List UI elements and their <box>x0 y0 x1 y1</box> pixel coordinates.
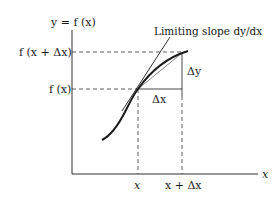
function-curve <box>102 51 188 140</box>
tangent-annotation: Limiting slope dy/dx <box>154 25 262 37</box>
secant-line <box>138 53 182 89</box>
delta-x-label: Δx <box>152 93 167 106</box>
y-axis-label: y = f (x) <box>50 16 96 29</box>
delta-y-label: Δy <box>187 65 202 78</box>
y-tick-upper: f (x + Δx) <box>19 46 72 59</box>
x-axis-label: x <box>262 168 269 181</box>
x-tick-right: x + Δx <box>165 179 202 192</box>
x-tick-left: x <box>134 179 141 192</box>
derivative-diagram: y = f (x) f (x + Δx) f (x) Limiting slop… <box>0 0 279 199</box>
y-tick-lower: f (x) <box>49 83 71 96</box>
